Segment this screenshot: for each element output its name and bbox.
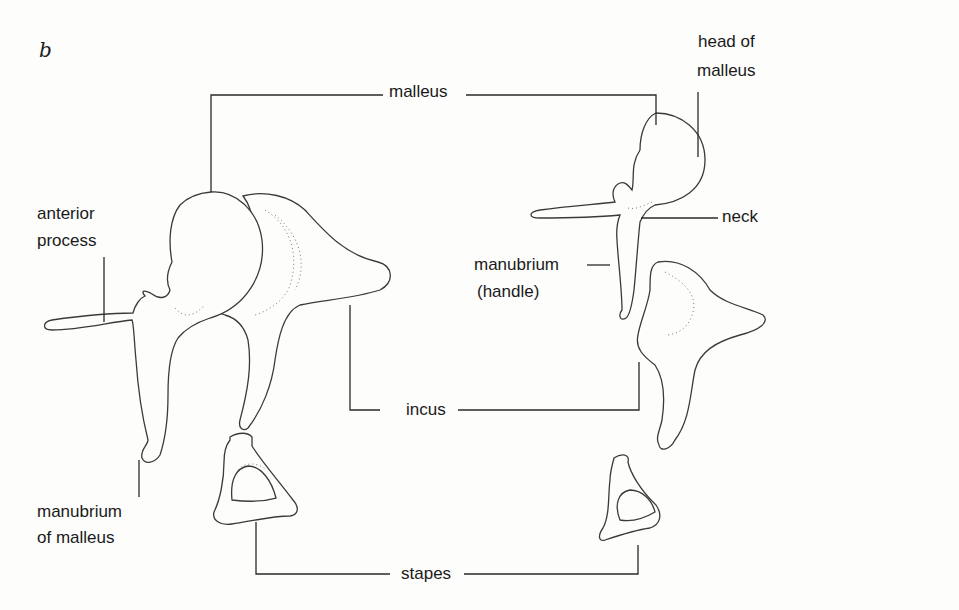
stapes-isolated <box>599 455 659 540</box>
panel-label: b <box>39 38 52 62</box>
label-malleus: malleus <box>389 78 448 106</box>
label-anterior-process-2: process <box>37 227 97 255</box>
incus-isolated <box>637 261 765 449</box>
label-incus: incus <box>406 396 446 424</box>
label-neck: neck <box>722 203 758 231</box>
ossicles-diagram: b malleus head of malleus neck manubrium… <box>0 0 959 610</box>
label-manubrium-handle-1: manubrium <box>474 251 559 279</box>
label-manubrium-handle-2: (handle) <box>477 278 539 306</box>
label-stapes: stapes <box>401 560 451 588</box>
label-head-of-malleus-1: head of <box>698 28 755 56</box>
label-head-of-malleus-2: malleus <box>697 57 756 85</box>
label-manubrium-of-malleus-1: manubrium <box>37 498 122 526</box>
label-anterior-process-1: anterior <box>37 200 95 228</box>
stapes-assembled <box>214 433 298 524</box>
label-manubrium-of-malleus-2: of malleus <box>37 524 114 552</box>
